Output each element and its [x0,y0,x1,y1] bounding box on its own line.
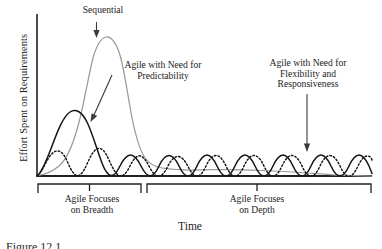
annotation-label-sequential: Sequential [58,5,148,16]
annotation-label-predictability: Agile with Need for Predictability [104,60,222,81]
figure-caption: Figure 12.1 [6,240,61,249]
annotation-label-flexibility: Agile with Need for Flexibility and Resp… [250,58,366,90]
agile-predictability-curve [38,110,373,176]
phase-label-breadth: Agile Focuses on Breadth [50,194,134,215]
series-agile-flexibility [38,148,373,176]
figure-container: Effort Spent on Requirements Time Sequen… [0,0,382,249]
series-agile-predictability [38,110,373,176]
agile-flexibility-curve [38,148,373,176]
x-axis-title: Time [150,220,230,233]
phase-label-depth: Agile Focuses on Depth [215,194,299,215]
phase-bracket-breadth [38,184,141,193]
y-axis-title: Effort Spent on Requirements [18,18,30,178]
sequential-arrow-icon [93,22,99,38]
predictability-arrow-icon [91,75,113,122]
chart-axes [36,14,372,177]
phase-bracket-depth [147,184,371,193]
flexibility-arrow-icon [304,94,310,152]
